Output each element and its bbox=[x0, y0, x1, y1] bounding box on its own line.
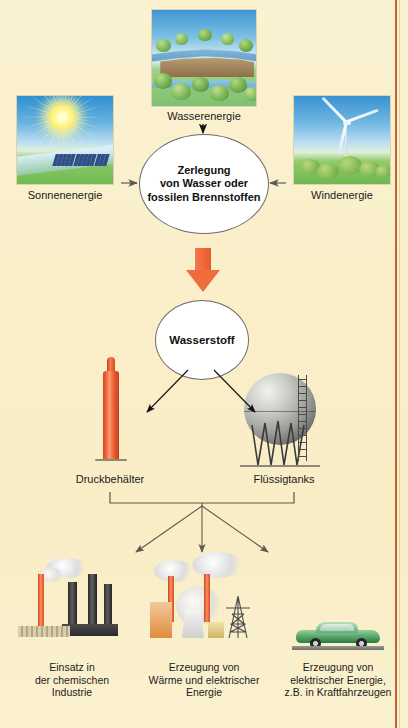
arrow-h2-to-cylinder bbox=[147, 370, 188, 412]
bracket-storage-join bbox=[110, 492, 294, 503]
connector-layer bbox=[0, 0, 408, 728]
arrow-to-chemie bbox=[136, 506, 202, 552]
arrow-to-kfz bbox=[202, 506, 268, 552]
diagram-canvas: Wasserenergie Sonnenenergie Windenergie … bbox=[0, 0, 408, 728]
arrow-h2-to-sphere bbox=[214, 370, 255, 412]
